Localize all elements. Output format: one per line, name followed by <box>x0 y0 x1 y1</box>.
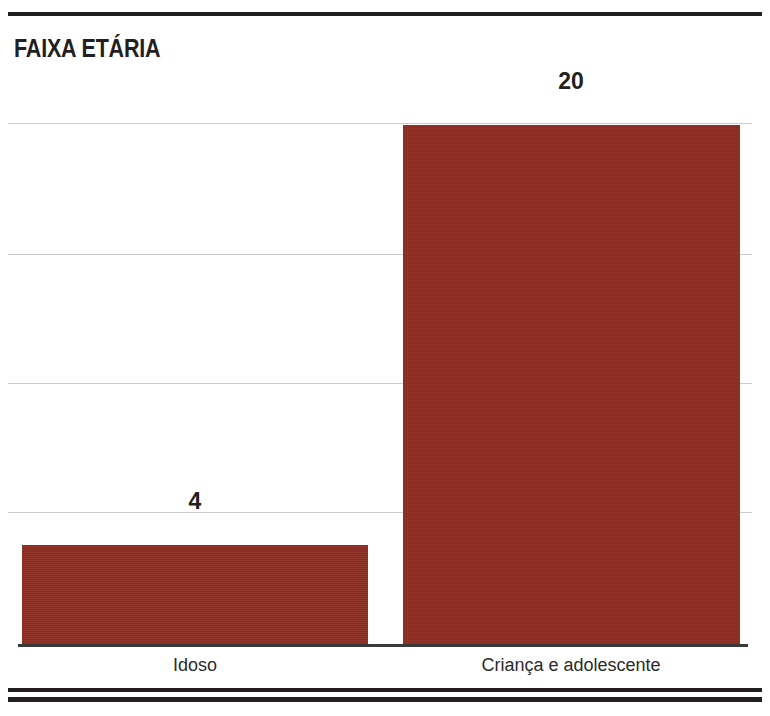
plot-area: 4 20 Idoso Criança e adolescente <box>0 0 770 716</box>
bar-value-idoso: 4 <box>145 490 245 513</box>
x-axis-label-crianca-e-adolescente: Criança e adolescente <box>421 656 721 674</box>
x-axis-label-idoso: Idoso <box>95 656 295 674</box>
bar-idoso[interactable] <box>22 545 368 645</box>
bar-value-crianca-e-adolescente: 20 <box>521 70 621 93</box>
bottom-divider-rule-upper <box>8 688 762 692</box>
x-axis-line <box>18 644 748 647</box>
bar-crianca-e-adolescente[interactable] <box>403 125 740 645</box>
chart-figure: FAIXA ETÁRIA 4 20 Idoso Criança e adoles… <box>0 0 770 716</box>
gridline-20 <box>8 123 752 124</box>
bottom-divider-rule-lower <box>8 697 762 702</box>
